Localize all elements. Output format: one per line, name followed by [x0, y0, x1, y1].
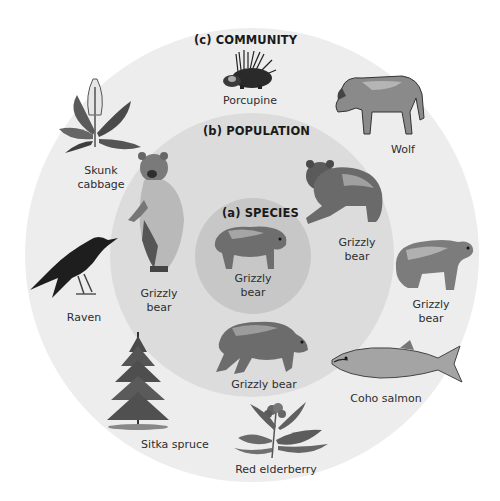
porcupine-label: Porcupine — [218, 94, 282, 108]
grizzly-right-label-line1: Grizzly — [406, 298, 456, 312]
grizzly-standing-label: Grizzly bear — [134, 287, 184, 315]
skunk-cabbage-label: Skunk cabbage — [76, 164, 126, 192]
grizzly-upper-right-label-line1: Grizzly — [332, 236, 382, 250]
porcupine-icon — [218, 48, 282, 90]
coho-salmon-icon — [330, 340, 464, 386]
grizzly-right-label-line2: bear — [406, 312, 456, 326]
wolf-icon — [332, 68, 428, 136]
red-elderberry-icon — [232, 400, 332, 460]
grizzly-upper-right-label: Grizzly bear — [332, 236, 382, 264]
grizzly-bottom-label: Grizzly bear — [222, 378, 306, 392]
grizzly-standing-icon — [128, 150, 192, 280]
grizzly-species-label: Grizzly bear — [228, 272, 278, 300]
community-heading: (c) COMMUNITY — [194, 33, 297, 47]
grizzly-species-icon — [210, 221, 290, 273]
sitka-spruce-icon — [105, 332, 171, 432]
sitka-spruce-label: Sitka spruce — [135, 438, 215, 452]
grizzly-right-label: Grizzly bear — [406, 298, 456, 326]
raven-label: Raven — [64, 311, 104, 325]
grizzly-upper-right-label-line2: bear — [332, 250, 382, 264]
grizzly-bottom-icon — [212, 318, 312, 376]
grizzly-standing-label-line2: bear — [134, 301, 184, 315]
skunk-cabbage-icon — [55, 75, 145, 155]
grizzly-standing-label-line1: Grizzly — [134, 287, 184, 301]
grizzly-upper-right-icon — [302, 154, 386, 226]
grizzly-right-icon — [392, 232, 476, 294]
grizzly-species-label-line2: bear — [228, 286, 278, 300]
skunk-cabbage-label-line2: cabbage — [76, 178, 126, 192]
grizzly-species-label-line1: Grizzly — [228, 272, 278, 286]
species-heading: (a) SPECIES — [222, 206, 299, 220]
population-heading: (b) POPULATION — [203, 124, 310, 138]
raven-icon — [28, 232, 120, 302]
coho-salmon-label: Coho salmon — [346, 392, 426, 406]
red-elderberry-label: Red elderberry — [226, 463, 326, 477]
wolf-label: Wolf — [383, 143, 423, 157]
skunk-cabbage-label-line1: Skunk — [76, 164, 126, 178]
